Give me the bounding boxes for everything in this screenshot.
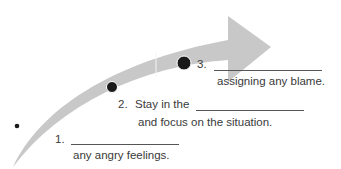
step-1-blank: [71, 144, 179, 145]
step-1-line2: any angry feelings.: [73, 149, 170, 162]
step-2-number: 2.: [118, 98, 128, 111]
step-3-dot: [177, 56, 191, 70]
step-1-dot: [15, 124, 20, 129]
step-3-line2: assigning any blame.: [217, 75, 325, 88]
steps-diagram: 1. any angry feelings. 2. Stay in the an…: [0, 0, 341, 169]
step-2-prefix: Stay in the: [135, 98, 189, 111]
step-1-number: 1.: [55, 133, 65, 146]
step-2-blank: [196, 110, 304, 111]
step-2-line2: and focus on the situation.: [138, 116, 272, 129]
step-2-dot: [107, 82, 118, 93]
step-3-blank: [214, 70, 322, 71]
step-3-number: 3.: [197, 58, 207, 71]
